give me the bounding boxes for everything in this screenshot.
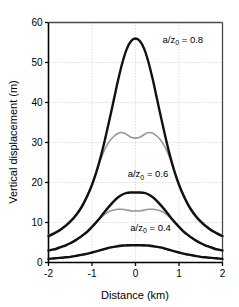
chart-figure: 0102030405060-2-1012 a/z0 = 0.8a/z0 = 0.…	[0, 0, 239, 307]
x-tick-label: -1	[88, 268, 97, 279]
curve-annotation: a/z0 = 0.6	[128, 168, 169, 180]
x-tick-label: 2	[220, 268, 226, 279]
y-axis-title: Vertical displacement (m)	[7, 80, 19, 204]
chart-plot-area: 0102030405060-2-1012 a/z0 = 0.8a/z0 = 0.…	[0, 0, 239, 307]
x-axis-title: Distance (km)	[101, 289, 169, 301]
x-tick-label: 1	[176, 268, 182, 279]
curve-annotation: a/z0 = 0.8	[162, 34, 203, 46]
tick-labels: 0102030405060-2-1012	[31, 17, 225, 278]
x-tick-label: -2	[44, 268, 53, 279]
y-tick-label: 40	[31, 97, 43, 108]
y-tick-label: 60	[31, 17, 43, 28]
y-tick-label: 0	[37, 257, 43, 268]
y-tick-label: 30	[31, 137, 43, 148]
curve-annotation: a/z0 = 0.4	[130, 222, 171, 234]
y-tick-label: 10	[31, 217, 43, 228]
x-tick-label: 0	[133, 268, 139, 279]
y-tick-label: 50	[31, 57, 43, 68]
y-tick-label: 20	[31, 177, 43, 188]
